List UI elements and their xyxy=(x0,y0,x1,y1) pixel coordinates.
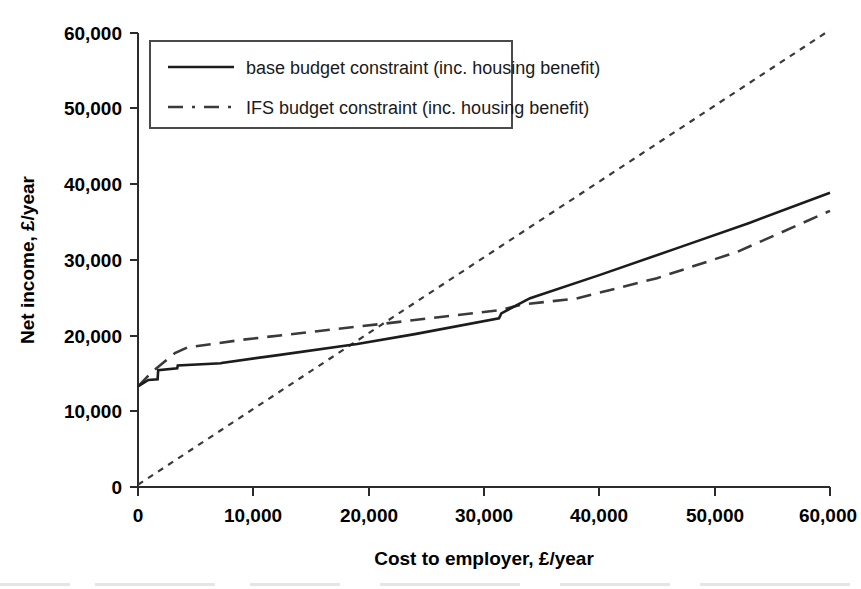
y-tick-label-40000: 40,000 xyxy=(64,174,122,195)
x-tick-label-10000: 10,000 xyxy=(224,505,282,526)
y-tick-label-50000: 50,000 xyxy=(64,98,122,119)
x-tick-label-50000: 50,000 xyxy=(686,505,744,526)
x-tick-label-20000: 20,000 xyxy=(340,505,398,526)
x-axis-title: Cost to employer, £/year xyxy=(374,548,594,569)
legend-label-ifs: IFS budget constraint (inc. housing bene… xyxy=(246,98,589,118)
y-axis-title: Net income, £/year xyxy=(17,175,38,344)
legend-label-base: base budget constraint (inc. housing ben… xyxy=(246,58,600,78)
scan-artifact-smudges xyxy=(0,583,850,586)
x-tick-label-0: 0 xyxy=(133,505,144,526)
y-tick-label-20000: 20,000 xyxy=(64,326,122,347)
y-tick-label-60000: 60,000 xyxy=(64,23,122,44)
y-tick-label-30000: 30,000 xyxy=(64,250,122,271)
y-tick-label-10000: 10,000 xyxy=(64,401,122,422)
x-tick-label-60000: 60,000 xyxy=(799,505,857,526)
x-tick-label-40000: 40,000 xyxy=(570,505,628,526)
figure-container: 60,000 50,000 40,000 30,000 20,000 10,00… xyxy=(0,0,861,589)
budget-constraint-chart: 60,000 50,000 40,000 30,000 20,000 10,00… xyxy=(0,0,861,589)
x-tick-label-30000: 30,000 xyxy=(455,505,513,526)
y-tick-label-0: 0 xyxy=(111,477,122,498)
